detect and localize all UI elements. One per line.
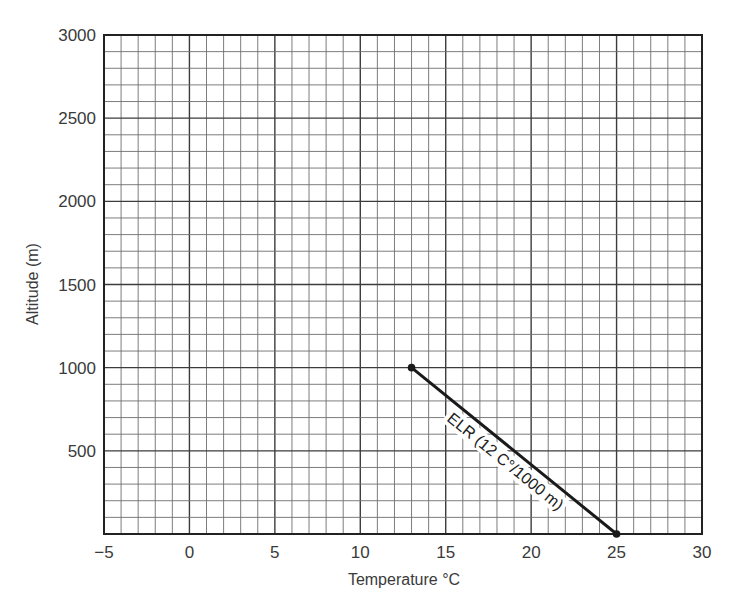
y-tick-label: 1500 xyxy=(58,276,96,295)
elr-chart: −5051015202530 50010001500200025003000 T… xyxy=(0,0,731,607)
data-point-marker xyxy=(408,364,416,372)
x-tick-label: 30 xyxy=(693,543,712,562)
x-tick-label: 20 xyxy=(522,543,541,562)
y-tick-label: 3000 xyxy=(58,26,96,45)
x-tick-label: 0 xyxy=(185,543,194,562)
x-tick-label: 15 xyxy=(436,543,455,562)
x-tick-label: 5 xyxy=(270,543,279,562)
x-tick-label: 10 xyxy=(351,543,370,562)
y-tick-label: 1000 xyxy=(58,359,96,378)
y-tick-label: 500 xyxy=(68,442,96,461)
x-tick-label: −5 xyxy=(94,543,113,562)
x-tick-label: 25 xyxy=(607,543,626,562)
data-point-marker xyxy=(613,530,621,538)
y-tick-label: 2500 xyxy=(58,109,96,128)
x-axis-title: Temperature °C xyxy=(348,571,460,588)
y-tick-label: 2000 xyxy=(58,192,96,211)
chart-background xyxy=(0,0,731,607)
y-axis-title: Altitude (m) xyxy=(24,243,41,325)
